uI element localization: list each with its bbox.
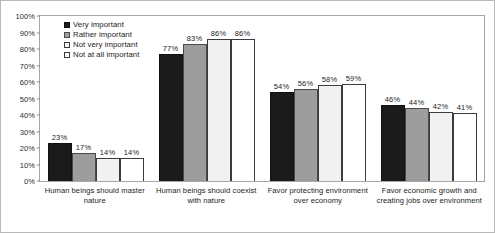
bar[interactable] bbox=[207, 39, 231, 181]
bar[interactable] bbox=[453, 113, 477, 181]
legend-item[interactable]: Not at all important bbox=[64, 50, 139, 59]
bar-value-label: 44% bbox=[409, 98, 424, 107]
x-axis-category-label: Human beings should coexist with nature bbox=[151, 186, 263, 206]
bar-value-label: 46% bbox=[385, 95, 400, 104]
bar-value-label: 86% bbox=[211, 29, 226, 38]
y-axis-tick-label: 90% bbox=[20, 28, 35, 37]
y-axis-tick-label: 50% bbox=[20, 94, 35, 103]
bar[interactable] bbox=[96, 158, 120, 181]
x-axis-category-label: Favor protecting environment over econom… bbox=[262, 186, 374, 206]
bar[interactable] bbox=[342, 84, 366, 181]
y-axis-tick-label: 70% bbox=[20, 61, 35, 70]
bar[interactable] bbox=[72, 153, 96, 181]
bar[interactable] bbox=[159, 54, 183, 181]
bar-slot: 42% bbox=[429, 16, 453, 181]
y-axis-tick-label: 100% bbox=[15, 12, 35, 21]
bar-value-label: 58% bbox=[322, 75, 337, 84]
legend-item-label: Not very important bbox=[73, 40, 138, 49]
x-axis-labels: Human beings should master natureHuman b… bbox=[39, 186, 485, 206]
bar-group: 46%44%42%41% bbox=[381, 16, 477, 181]
bar[interactable] bbox=[429, 112, 453, 181]
bar-group: 54%56%58%59% bbox=[270, 16, 366, 181]
bar[interactable] bbox=[270, 92, 294, 181]
bar-value-label: 14% bbox=[100, 148, 115, 157]
bar[interactable] bbox=[231, 39, 255, 181]
bar-value-label: 41% bbox=[457, 103, 472, 112]
y-axis-tick-label: 80% bbox=[20, 45, 35, 54]
legend-item-label: Not at all important bbox=[73, 50, 139, 59]
bar-value-label: 17% bbox=[76, 143, 91, 152]
bar[interactable] bbox=[183, 44, 207, 181]
bar-slot: 44% bbox=[405, 16, 429, 181]
bar-slot: 83% bbox=[183, 16, 207, 181]
bar-slot: 86% bbox=[231, 16, 255, 181]
bar-slot: 77% bbox=[159, 16, 183, 181]
bar-slot: 86% bbox=[207, 16, 231, 181]
bar-value-label: 54% bbox=[274, 82, 289, 91]
bar-value-label: 83% bbox=[187, 34, 202, 43]
bar[interactable] bbox=[405, 108, 429, 181]
bar-value-label: 56% bbox=[298, 79, 313, 88]
bar-value-label: 42% bbox=[433, 102, 448, 111]
chart-legend: Very importantRather importantNot very i… bbox=[64, 20, 139, 59]
y-axis-tick-label: 30% bbox=[20, 127, 35, 136]
legend-item-label: Rather important bbox=[73, 30, 132, 39]
bar-slot: 58% bbox=[318, 16, 342, 181]
plot-area: 100%90%80%70%60%50%40%30%20%10%0% 23%17%… bbox=[39, 15, 485, 182]
bar[interactable] bbox=[294, 89, 318, 181]
bar-group: 77%83%86%86% bbox=[159, 16, 255, 181]
bar-slot: 59% bbox=[342, 16, 366, 181]
bar-value-label: 77% bbox=[163, 44, 178, 53]
bar-value-label: 14% bbox=[124, 148, 139, 157]
bar-value-label: 86% bbox=[235, 29, 250, 38]
y-axis-tick-label: 60% bbox=[20, 78, 35, 87]
y-axis-tick-label: 40% bbox=[20, 111, 35, 120]
bar[interactable] bbox=[318, 85, 342, 181]
y-axis-tick-label: 0% bbox=[24, 177, 35, 186]
bar-slot: 41% bbox=[453, 16, 477, 181]
bar-value-label: 23% bbox=[52, 133, 67, 142]
legend-swatch-icon bbox=[64, 22, 70, 28]
legend-item[interactable]: Very important bbox=[64, 20, 139, 29]
legend-item[interactable]: Not very important bbox=[64, 40, 139, 49]
bar-slot: 46% bbox=[381, 16, 405, 181]
bar[interactable] bbox=[48, 143, 72, 181]
bar[interactable] bbox=[120, 158, 144, 181]
legend-item[interactable]: Rather important bbox=[64, 30, 139, 39]
y-axis-tick-label: 20% bbox=[20, 144, 35, 153]
y-axis-tick-label: 10% bbox=[20, 160, 35, 169]
legend-item-label: Very important bbox=[73, 20, 124, 29]
x-axis-category-label: Favor economic growth and creating jobs … bbox=[374, 186, 486, 206]
legend-swatch-icon bbox=[64, 32, 70, 38]
legend-swatch-icon bbox=[64, 42, 70, 48]
bar[interactable] bbox=[381, 105, 405, 181]
bar-slot: 54% bbox=[270, 16, 294, 181]
bar-slot: 56% bbox=[294, 16, 318, 181]
x-axis-category-label: Human beings should master nature bbox=[39, 186, 151, 206]
bar-value-label: 59% bbox=[346, 74, 361, 83]
chart-figure: 100%90%80%70%60%50%40%30%20%10%0% 23%17%… bbox=[0, 0, 495, 233]
legend-swatch-icon bbox=[64, 52, 70, 58]
